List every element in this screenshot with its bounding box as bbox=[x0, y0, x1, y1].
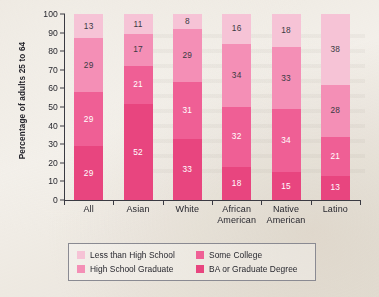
y-axis-label: Percentage of adults 25 to 64 bbox=[18, 21, 27, 181]
bar-segment: 33 bbox=[173, 139, 202, 200]
x-axis-label: Asian bbox=[113, 204, 162, 215]
stacked-bar[interactable]: 13292929 bbox=[74, 14, 103, 200]
legend-item[interactable]: Some College bbox=[196, 249, 307, 261]
bar-segment-value: 29 bbox=[84, 115, 94, 123]
bar-segment: 29 bbox=[173, 29, 202, 82]
bar-segment-value: 17 bbox=[133, 45, 143, 53]
legend-label: Some College bbox=[209, 250, 262, 260]
x-axis-label: NativeAmerican bbox=[261, 204, 310, 225]
bar-segment: 33 bbox=[272, 47, 301, 108]
stacked-bar[interactable]: 16343218 bbox=[222, 14, 251, 200]
bar-segment-value: 29 bbox=[84, 61, 94, 69]
bar-segment-value: 29 bbox=[183, 51, 193, 59]
bar-segment: 28 bbox=[321, 85, 350, 137]
bar-segment: 34 bbox=[222, 44, 251, 107]
bar-segment-value: 28 bbox=[331, 106, 341, 114]
legend: Less than High SchoolSome CollegeHigh Sc… bbox=[68, 243, 316, 281]
stacked-bar[interactable]: 38282113 bbox=[321, 14, 350, 200]
bar-segment-value: 8 bbox=[185, 17, 190, 25]
y-tick-label: 60 bbox=[32, 83, 58, 93]
bar-segment: 29 bbox=[74, 146, 103, 200]
y-tick-label: 30 bbox=[32, 139, 58, 149]
bar-segment-value: 33 bbox=[281, 74, 291, 82]
bar-segment-value: 32 bbox=[232, 132, 242, 140]
bar-segment: 18 bbox=[222, 167, 251, 200]
bar-segment-value: 16 bbox=[232, 24, 242, 32]
bar-segment-value: 21 bbox=[133, 80, 143, 88]
bar-segment: 38 bbox=[321, 14, 350, 85]
bar-segment: 8 bbox=[173, 14, 202, 29]
bar-segment: 29 bbox=[74, 92, 103, 146]
y-tick-label: 90 bbox=[32, 28, 58, 38]
legend-swatch bbox=[77, 251, 85, 259]
bar-group: 8293133 bbox=[173, 14, 202, 200]
y-tick-label: 50 bbox=[32, 102, 58, 112]
bar-segment-value: 52 bbox=[133, 148, 143, 156]
bar-segment-value: 11 bbox=[133, 20, 142, 28]
bar-segment-value: 34 bbox=[232, 71, 242, 79]
y-tick-label: 100 bbox=[32, 9, 58, 19]
bar-segment: 13 bbox=[74, 14, 103, 38]
bar-group: 38282113 bbox=[321, 14, 350, 200]
bar-segment-value: 29 bbox=[84, 169, 94, 177]
bar-segment: 34 bbox=[272, 109, 301, 172]
bar-group: 13292929 bbox=[74, 14, 103, 200]
stacked-bar[interactable]: 11172152 bbox=[124, 14, 153, 200]
bar-group: 11172152 bbox=[124, 14, 153, 200]
legend-item[interactable]: High School Graduate bbox=[77, 264, 188, 276]
bar-segment: 16 bbox=[222, 14, 251, 44]
legend-item[interactable]: Less than High School bbox=[77, 249, 188, 261]
y-tick-label: 70 bbox=[32, 65, 58, 75]
bar-group: 18333415 bbox=[272, 14, 301, 200]
bar-segment: 21 bbox=[321, 137, 350, 176]
x-axis-label-line: Latino bbox=[311, 204, 360, 215]
bar-segment-value: 31 bbox=[183, 106, 193, 114]
x-axis-label-line: Native bbox=[261, 204, 310, 215]
x-axis-label-line: African bbox=[212, 204, 261, 215]
bar-segment-value: 18 bbox=[281, 26, 291, 34]
stacked-bar[interactable]: 8293133 bbox=[173, 14, 202, 200]
bar-segment-value: 34 bbox=[281, 136, 291, 144]
x-axis-label-line: White bbox=[163, 204, 212, 215]
stacked-bar[interactable]: 18333415 bbox=[272, 14, 301, 200]
bar-group: 16343218 bbox=[222, 14, 251, 200]
bar-segment: 11 bbox=[124, 14, 153, 34]
y-axis-ticks: 1009080706050403020100 bbox=[30, 14, 64, 200]
legend-swatch bbox=[77, 265, 85, 273]
bar-segment: 15 bbox=[272, 172, 301, 200]
bar-segment-value: 33 bbox=[183, 165, 193, 173]
bar-segment: 29 bbox=[74, 38, 103, 92]
bar-segment: 32 bbox=[222, 107, 251, 167]
stacked-bar-chart: Percentage of adults 25 to 64 1009080706… bbox=[0, 0, 379, 297]
legend-label: Less than High School bbox=[90, 250, 175, 260]
bar-segment: 17 bbox=[124, 34, 153, 65]
x-axis-label: White bbox=[163, 204, 212, 215]
bar-segment-value: 38 bbox=[331, 45, 341, 53]
legend-label: High School Graduate bbox=[90, 264, 173, 274]
legend-item[interactable]: BA or Graduate Degree bbox=[196, 264, 307, 276]
plot-area: Percentage of adults 25 to 64 1009080706… bbox=[0, 0, 379, 240]
legend-swatch bbox=[196, 251, 204, 259]
bar-segment-value: 15 bbox=[281, 182, 291, 190]
y-tick-label: 20 bbox=[32, 158, 58, 168]
legend-label: BA or Graduate Degree bbox=[209, 264, 298, 274]
y-tick-label: 10 bbox=[32, 176, 58, 186]
bar-segment: 18 bbox=[272, 14, 301, 47]
bar-segment-value: 18 bbox=[232, 179, 242, 187]
bar-segment: 13 bbox=[321, 176, 350, 200]
y-tick-label: 40 bbox=[32, 121, 58, 131]
x-tick-mark bbox=[360, 200, 361, 205]
bar-groups: 1329292911172152829313316343218183334153… bbox=[64, 14, 360, 200]
bar-segment: 21 bbox=[124, 66, 153, 105]
x-axis-label: Latino bbox=[311, 204, 360, 215]
y-tick-label: 80 bbox=[32, 46, 58, 56]
x-axis-label: AfricanAmerican bbox=[212, 204, 261, 225]
bar-segment: 31 bbox=[173, 82, 202, 139]
x-axis-label-line: Asian bbox=[113, 204, 162, 215]
bar-segment-value: 21 bbox=[331, 152, 341, 160]
x-axis-label: All bbox=[64, 204, 113, 215]
x-axis-label-line: All bbox=[64, 204, 113, 215]
legend-swatch bbox=[196, 265, 204, 273]
bar-segment-value: 13 bbox=[84, 22, 94, 30]
bar-segment-value: 13 bbox=[331, 183, 341, 191]
